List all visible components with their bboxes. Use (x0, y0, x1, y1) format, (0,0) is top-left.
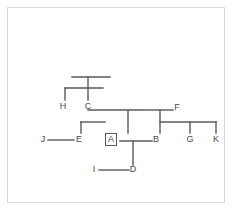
node-b[interactable]: B (153, 135, 159, 144)
node-e[interactable]: E (76, 135, 82, 144)
node-j[interactable]: J (41, 135, 46, 144)
edge-layer (48, 77, 216, 170)
node-f[interactable]: F (174, 103, 180, 112)
node-d[interactable]: D (130, 165, 137, 174)
node-k[interactable]: K (213, 135, 219, 144)
screenshot-canvas: HCFJEABGKID (0, 0, 233, 211)
pedigree-graph (0, 0, 233, 211)
node-h[interactable]: H (60, 102, 67, 111)
node-c[interactable]: C (85, 102, 92, 111)
node-g[interactable]: G (186, 135, 193, 144)
node-a[interactable]: A (105, 133, 117, 146)
node-i[interactable]: I (93, 165, 96, 174)
